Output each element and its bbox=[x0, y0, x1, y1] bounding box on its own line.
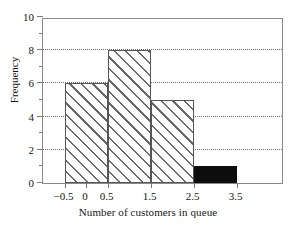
y-minor-tick-5 bbox=[39, 99, 43, 100]
y-tick-0 bbox=[37, 182, 43, 183]
y-tick-10 bbox=[37, 16, 43, 17]
y-tick-label: 4 bbox=[8, 111, 34, 123]
x-tick-label: 3.5 bbox=[216, 190, 256, 202]
x-tick-label: 1.5 bbox=[130, 190, 170, 202]
y-tick-label: 0 bbox=[8, 177, 34, 189]
histogram-bar bbox=[151, 100, 194, 183]
x-tick-label: −0.5 bbox=[44, 190, 84, 202]
y-tick-4 bbox=[37, 116, 43, 117]
y-tick-label: 10 bbox=[8, 11, 34, 23]
y-tick-label: 2 bbox=[8, 144, 34, 156]
x-tick-0.5 bbox=[108, 183, 109, 188]
y-tick-8 bbox=[37, 49, 43, 50]
y-tick-2 bbox=[37, 149, 43, 150]
histogram-bar bbox=[194, 166, 237, 183]
plot-area bbox=[42, 18, 283, 184]
x-tick-3.5 bbox=[237, 183, 238, 188]
x-tick-label: 0.5 bbox=[87, 190, 127, 202]
y-tick-label: 8 bbox=[8, 44, 34, 56]
y-tick-6 bbox=[37, 82, 43, 83]
x-tick-2.5 bbox=[194, 183, 195, 188]
x-tick-1.5 bbox=[151, 183, 152, 188]
y-minor-tick-7 bbox=[39, 66, 43, 67]
y-minor-tick-1 bbox=[39, 165, 43, 166]
x-tick--0.5 bbox=[65, 183, 66, 188]
histogram-bar bbox=[65, 83, 108, 183]
x-tick-0 bbox=[86, 183, 87, 188]
y-tick-label: 6 bbox=[8, 77, 34, 89]
gridline-y-8 bbox=[43, 49, 282, 50]
x-axis-title: Number of customers in queue bbox=[0, 206, 296, 218]
y-minor-tick-3 bbox=[39, 132, 43, 133]
histogram-bar bbox=[108, 50, 151, 183]
x-tick-label: 2.5 bbox=[173, 190, 213, 202]
histogram-chart: Frequency Number of customers in queue 0… bbox=[0, 0, 296, 229]
y-minor-tick-9 bbox=[39, 33, 43, 34]
